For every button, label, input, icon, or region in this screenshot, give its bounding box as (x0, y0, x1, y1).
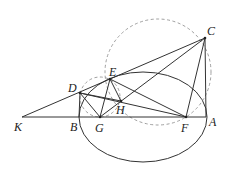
label-H: H (115, 103, 126, 117)
geometry-diagram: K B G H D E F A C (0, 0, 230, 178)
segment-DB (79, 93, 80, 117)
label-F: F (180, 121, 189, 135)
label-A: A (208, 115, 217, 129)
label-B: B (70, 120, 78, 134)
label-G: G (95, 121, 104, 135)
point-H (120, 100, 123, 103)
point-C (204, 37, 207, 40)
label-C: C (207, 24, 216, 38)
label-K: K (13, 120, 23, 134)
point-F (185, 116, 188, 119)
label-D: D (67, 81, 77, 95)
point-D (79, 92, 82, 95)
label-E: E (108, 65, 117, 79)
point-G (99, 116, 102, 119)
